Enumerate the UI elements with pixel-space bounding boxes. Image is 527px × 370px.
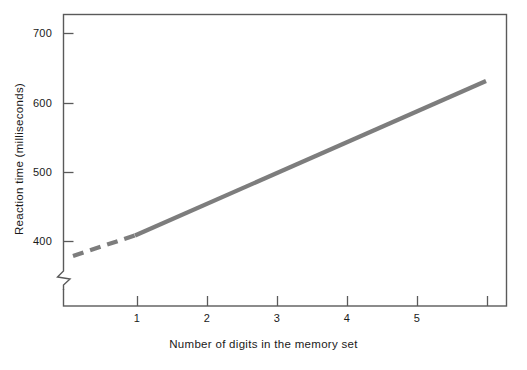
x-tick-label-3: 3 [274, 312, 280, 324]
y-tick-label-500: 500 [24, 166, 52, 178]
y-axis-title: Reaction time (milliseconds) [13, 54, 25, 264]
chart-plot-area [0, 0, 527, 370]
x-axis-ticks [138, 296, 488, 306]
plot-frame [64, 15, 507, 307]
y-axis-break-icon [57, 267, 70, 290]
x-tick-label-5: 5 [414, 312, 420, 324]
data-line-solid-segment [135, 81, 486, 236]
data-line-dashed-segment [73, 235, 136, 256]
x-tick-label-2: 2 [204, 312, 210, 324]
y-tick-label-600: 600 [24, 97, 52, 109]
y-tick-label-700: 700 [24, 27, 52, 39]
x-tick-label-4: 4 [344, 312, 350, 324]
chart-figure: 700 600 500 400 1 2 3 4 5 Number of digi… [0, 0, 527, 370]
y-axis-ticks [64, 34, 74, 242]
x-axis-title: Number of digits in the memory set [0, 338, 527, 350]
x-tick-label-1: 1 [134, 312, 140, 324]
y-tick-label-400: 400 [24, 235, 52, 247]
